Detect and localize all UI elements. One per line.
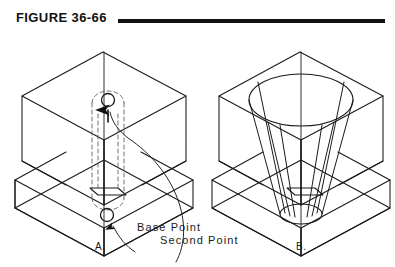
title-rule [118, 19, 385, 23]
panel-b-drawing [212, 52, 390, 256]
page-title: FIGURE 36-66 [16, 10, 107, 25]
panel-a-lower-body [15, 180, 104, 256]
base-point-label: Base Point [137, 221, 201, 233]
panel-b-lower-right-top-edge [338, 152, 390, 180]
second-point-circle [102, 94, 115, 107]
panel-b-lower-right-body [301, 180, 390, 256]
panel-b-caption: B. [296, 241, 306, 252]
panel-b-lower-left-top-edge [212, 152, 263, 180]
channel-top-cap [92, 91, 124, 103]
panel-a-shelf-aperture [90, 188, 126, 195]
panel-a-second-point-marker [102, 94, 115, 123]
figure-page: FIGURE 36-66 [0, 0, 395, 267]
panel-b-upper-right-face [301, 96, 383, 205]
panel-a-extrusion-channel [92, 91, 124, 210]
panel-a-lower-right-top-edge [141, 152, 193, 180]
second-point-label: Second Point [160, 234, 239, 246]
panel-a-base-point-marker [101, 209, 114, 222]
panel-a-lower-left-top-edge [15, 152, 66, 180]
figure-header: FIGURE 36-66 [0, 0, 395, 34]
panel-a-caption: A. [95, 241, 105, 252]
panel-b-upper-left-face [219, 96, 301, 205]
base-point-circle [101, 209, 114, 222]
base-point-leader [113, 226, 135, 252]
